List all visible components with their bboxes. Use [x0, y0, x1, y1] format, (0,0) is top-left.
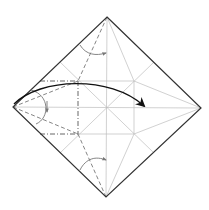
valley-bottom — [78, 134, 106, 197]
origami-diagram — [0, 0, 209, 210]
crease-lines — [13, 17, 201, 197]
crease-right-kite-upper — [134, 81, 201, 108]
crease-top-to-right-kite-1 — [107, 17, 134, 81]
crease-right-kite-lower — [134, 108, 201, 134]
crease-bottom-to-right-kite — [106, 134, 134, 197]
top-fold-arrow-icon — [80, 45, 106, 54]
valley-top — [78, 17, 107, 81]
bottom-fold-arrow-icon — [80, 158, 106, 170]
